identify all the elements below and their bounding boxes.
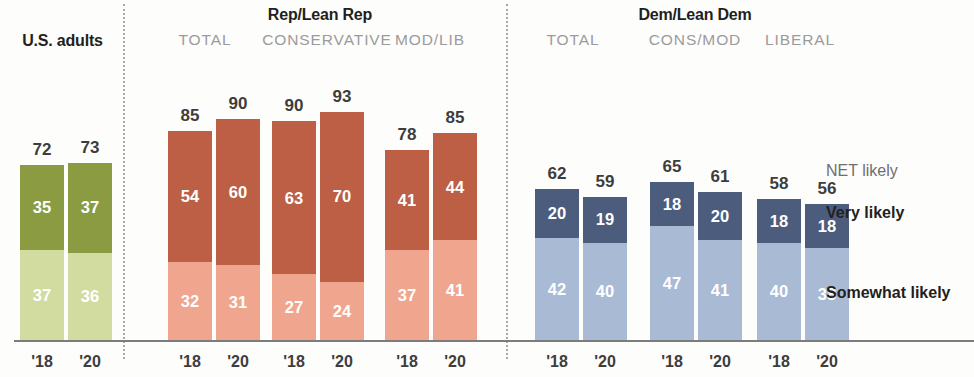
bar-segment-very-likely: 70 xyxy=(320,112,364,282)
bar-segment-somewhat-likely: 37 xyxy=(20,250,64,340)
bar-segment-very-likely: 19 xyxy=(583,197,627,243)
segment-value-very-likely: 35 xyxy=(33,199,51,216)
bar-segment-somewhat-likely: 24 xyxy=(320,282,364,340)
group-title-us-adults: U.S. adults xyxy=(0,32,125,50)
segment-value-very-likely: 37 xyxy=(81,199,99,216)
segment-value-somewhat-likely: 47 xyxy=(663,275,681,292)
segment-value-somewhat-likely: 40 xyxy=(596,283,614,300)
section-divider-right xyxy=(506,4,508,359)
x-tick-label: '20 xyxy=(427,354,483,370)
x-tick-label: '20 xyxy=(62,354,118,370)
bar-dem-cons-mod-20: 2041 xyxy=(698,192,742,340)
bar-dem-cons-mod-18: 1847 xyxy=(650,182,694,340)
segment-value-very-likely: 70 xyxy=(333,188,351,205)
bar-segment-very-likely: 54 xyxy=(168,131,212,262)
net-value-label: 78 xyxy=(379,126,435,143)
bar-segment-somewhat-likely: 36 xyxy=(68,253,112,340)
segment-value-somewhat-likely: 24 xyxy=(333,303,351,320)
segment-value-somewhat-likely: 40 xyxy=(770,283,788,300)
bar-segment-very-likely: 44 xyxy=(433,133,477,240)
bar-segment-somewhat-likely: 27 xyxy=(272,274,316,340)
segment-value-somewhat-likely: 31 xyxy=(229,294,247,311)
bar-segment-very-likely: 63 xyxy=(272,121,316,274)
legend-label-very-likely: Very likely xyxy=(826,205,904,221)
bar-us-adults-18: 3537 xyxy=(20,165,64,340)
segment-value-somewhat-likely: 36 xyxy=(81,288,99,305)
bar-us-adults-20: 3736 xyxy=(68,163,112,340)
bar-segment-very-likely: 18 xyxy=(757,199,801,243)
segment-value-very-likely: 60 xyxy=(229,184,247,201)
bar-segment-very-likely: 18 xyxy=(650,182,694,226)
segment-value-very-likely: 63 xyxy=(285,190,303,207)
bar-rep-conservative-18: 6327 xyxy=(272,121,316,340)
net-value-label: 73 xyxy=(62,139,118,156)
pew-stacked-bar-chart: U.S. adults Rep/Lean Rep TOTAL CONSERVAT… xyxy=(0,0,974,377)
net-value-label: 93 xyxy=(314,88,370,105)
bar-rep-conservative-20: 7024 xyxy=(320,112,364,340)
bar-rep-mod-lib-18: 4137 xyxy=(385,150,429,340)
x-tick-label: '20 xyxy=(577,354,633,370)
bar-segment-somewhat-likely: 32 xyxy=(168,262,212,340)
segment-value-somewhat-likely: 37 xyxy=(33,287,51,304)
segment-value-very-likely: 44 xyxy=(446,179,464,196)
segment-value-very-likely: 20 xyxy=(548,205,566,222)
segment-value-somewhat-likely: 42 xyxy=(548,281,566,298)
bar-segment-somewhat-likely: 41 xyxy=(433,240,477,340)
group-subtitle-dem-liberal: LIBERAL xyxy=(740,31,860,49)
bar-segment-somewhat-likely: 41 xyxy=(698,240,742,340)
group-title-dem: Dem/Lean Dem xyxy=(580,6,810,24)
segment-value-somewhat-likely: 41 xyxy=(446,282,464,299)
bar-segment-very-likely: 41 xyxy=(385,150,429,250)
bar-segment-somewhat-likely: 40 xyxy=(757,243,801,340)
x-tick-label: '20 xyxy=(314,354,370,370)
section-divider-left xyxy=(123,4,125,359)
bar-segment-very-likely: 60 xyxy=(216,119,260,265)
segment-value-very-likely: 20 xyxy=(711,208,729,225)
segment-value-somewhat-likely: 37 xyxy=(398,287,416,304)
segment-value-very-likely: 18 xyxy=(663,196,681,213)
bar-segment-somewhat-likely: 40 xyxy=(583,243,627,340)
segment-value-very-likely: 19 xyxy=(596,211,614,228)
x-tick-label: '20 xyxy=(799,354,855,370)
bar-dem-total-20: 1940 xyxy=(583,197,627,340)
x-tick-label: '20 xyxy=(692,354,748,370)
bar-segment-very-likely: 35 xyxy=(20,165,64,250)
bar-segment-somewhat-likely: 31 xyxy=(216,265,260,340)
bar-segment-very-likely: 20 xyxy=(535,189,579,238)
segment-value-somewhat-likely: 32 xyxy=(181,293,199,310)
group-title-rep: Rep/Lean Rep xyxy=(205,6,435,24)
net-value-label: 85 xyxy=(427,109,483,126)
segment-value-very-likely: 41 xyxy=(398,192,416,209)
bar-dem-total-18: 2042 xyxy=(535,189,579,340)
net-value-label: 90 xyxy=(210,95,266,112)
net-value-label: 59 xyxy=(577,173,633,190)
segment-value-somewhat-likely: 41 xyxy=(711,282,729,299)
x-tick-label: '20 xyxy=(210,354,266,370)
net-value-label: 56 xyxy=(799,180,855,197)
bar-dem-liberal-18: 1840 xyxy=(757,199,801,340)
x-axis-baseline xyxy=(14,340,974,342)
bar-rep-mod-lib-20: 4441 xyxy=(433,133,477,340)
group-subtitle-rep-mod-lib: MOD/LIB xyxy=(375,31,485,49)
bar-dem-liberal-20: 1838 xyxy=(805,204,849,340)
group-subtitle-dem-total: TOTAL xyxy=(518,31,628,49)
segment-value-very-likely: 54 xyxy=(181,188,199,205)
bar-segment-somewhat-likely: 37 xyxy=(385,250,429,340)
legend-label-net-likely: NET likely xyxy=(826,163,898,179)
bar-segment-somewhat-likely: 47 xyxy=(650,226,694,340)
net-value-label: 61 xyxy=(692,168,748,185)
bar-rep-total-20: 6031 xyxy=(216,119,260,340)
group-subtitle-rep-total: TOTAL xyxy=(150,31,260,49)
bar-segment-very-likely: 20 xyxy=(698,192,742,241)
segment-value-very-likely: 18 xyxy=(770,213,788,230)
segment-value-somewhat-likely: 27 xyxy=(285,299,303,316)
legend-label-somewhat-likely: Somewhat likely xyxy=(826,285,951,301)
bar-segment-very-likely: 37 xyxy=(68,163,112,253)
bar-rep-total-18: 5432 xyxy=(168,131,212,340)
bar-segment-somewhat-likely: 42 xyxy=(535,238,579,340)
